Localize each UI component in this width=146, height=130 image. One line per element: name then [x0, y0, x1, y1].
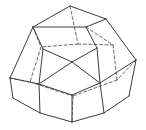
dodecahedron-figure: Dodecahedron wireframe Line drawing of a… — [0, 0, 146, 130]
dodecahedron-wireframe-svg: Dodecahedron wireframe Line drawing of a… — [0, 0, 146, 130]
